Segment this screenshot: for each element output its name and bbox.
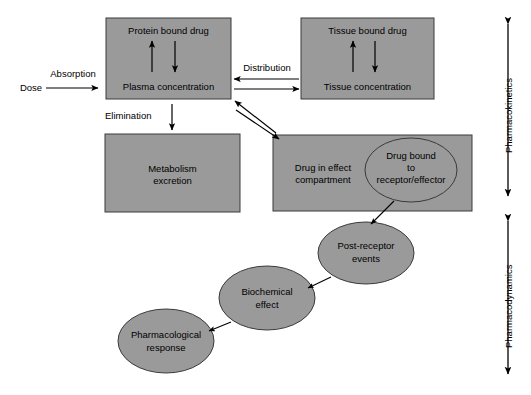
effect-to-plasma-arrow bbox=[235, 101, 276, 133]
biochemical-effect-ellipse bbox=[219, 266, 315, 330]
plasma-compartment-box bbox=[106, 18, 231, 99]
post-receptor-events-ellipse bbox=[318, 222, 414, 284]
diagram-canvas bbox=[0, 0, 531, 395]
pharmacological-response-ellipse bbox=[118, 309, 214, 373]
plasma-to-effect-arrow bbox=[236, 110, 279, 139]
biochemical-to-pharmacological-arrow bbox=[209, 322, 231, 331]
metabolism-excretion-box bbox=[105, 134, 240, 212]
pharmacokinetics-bracket-label: Pharmacokinetics bbox=[503, 78, 514, 153]
postreceptor-to-biochemical-arrow bbox=[308, 277, 331, 288]
drug-bound-receptor-ellipse bbox=[365, 138, 457, 202]
tissue-compartment-box bbox=[301, 18, 434, 99]
pharmacology-diagram: Dose Absorption Protein bound drug Plasm… bbox=[0, 0, 531, 395]
pharmacodynamics-bracket-label: Pharmacodynamics bbox=[503, 265, 514, 348]
